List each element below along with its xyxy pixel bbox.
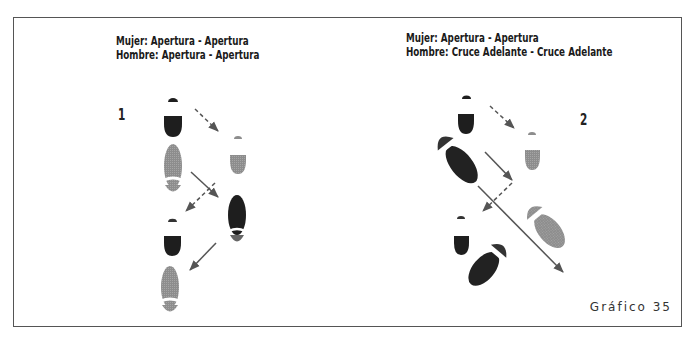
panel-1-man-foot-start bbox=[164, 98, 182, 137]
panel-2-woman-foot-cross bbox=[521, 200, 572, 254]
panel-2-woman-foot-start bbox=[525, 132, 540, 170]
panel-2-man-foot-cross bbox=[431, 131, 484, 190]
panel-2-man-foot-start bbox=[458, 96, 474, 135]
panel-2-woman-step-arrow-2 bbox=[483, 183, 512, 211]
footwork-diagram bbox=[0, 0, 698, 339]
panel-1-woman-step-arrow-1 bbox=[195, 109, 218, 131]
panel-1-man-step-arrow-2 bbox=[190, 243, 216, 270]
panel-1-woman-foot-end bbox=[230, 136, 246, 174]
panel-1-woman-foot-return bbox=[161, 266, 179, 312]
panel-2-man-foot-return bbox=[454, 216, 469, 255]
panel-1-woman-foot-start bbox=[164, 144, 182, 192]
panel-2-man-step-arrow-1 bbox=[485, 152, 512, 180]
panel-1-man-foot-end bbox=[228, 195, 246, 242]
panel-2-man-foot-cross-return bbox=[462, 238, 513, 292]
panel-2-woman-step-arrow-1 bbox=[490, 106, 514, 128]
panel-1-man-foot-return bbox=[164, 219, 181, 256]
panel-1-woman-step-arrow-2 bbox=[186, 183, 215, 211]
